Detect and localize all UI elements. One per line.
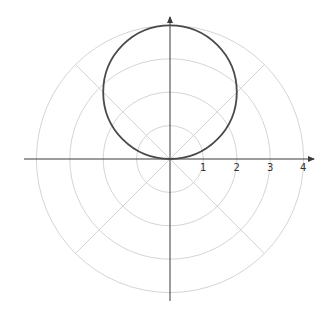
polar-plot: 1 2 3 4 xyxy=(0,0,334,316)
tick-label-3: 3 xyxy=(267,162,273,173)
tick-label-4: 4 xyxy=(300,162,306,173)
tick-label-2: 2 xyxy=(234,162,240,173)
tick-label-1: 1 xyxy=(200,162,206,173)
tick-labels: 1 2 3 4 xyxy=(200,162,306,173)
